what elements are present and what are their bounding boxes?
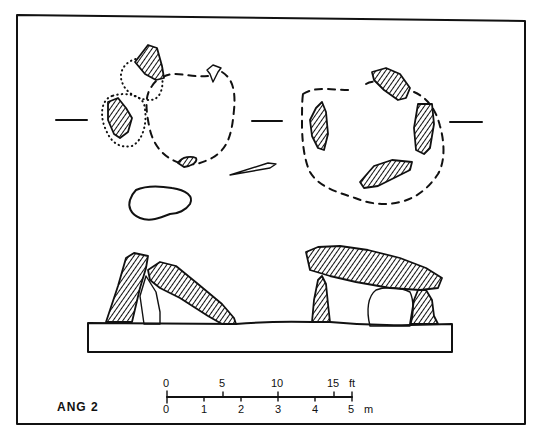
elevation-rounded-boulder bbox=[368, 288, 413, 326]
plan-stone-small-top bbox=[207, 65, 221, 82]
dashed-chamber-outline bbox=[147, 72, 235, 164]
scale-m-1: 1 bbox=[201, 403, 207, 415]
left-tomb-elevation bbox=[106, 253, 236, 324]
right-tomb-plan bbox=[302, 68, 444, 204]
elevation-capstone-collapsed bbox=[148, 262, 236, 324]
scale-ft-10: 10 bbox=[271, 377, 283, 389]
scale-m-0: 0 bbox=[163, 403, 169, 415]
plan-stone-right-left bbox=[310, 102, 328, 150]
scale-ft-0: 0 bbox=[163, 377, 169, 389]
elevation-upright-left bbox=[312, 276, 330, 322]
left-tomb-plan bbox=[102, 45, 234, 220]
scale-m-2: 2 bbox=[238, 403, 244, 415]
figure-frame bbox=[17, 15, 525, 424]
figure-label: ANG 2 bbox=[57, 400, 99, 414]
ground-slab bbox=[88, 322, 452, 352]
right-tomb-elevation bbox=[306, 246, 442, 326]
scale-m-unit: m bbox=[364, 403, 373, 415]
plan-stone-right-bottom bbox=[360, 160, 412, 188]
scale-m-3: 3 bbox=[275, 403, 281, 415]
plan-stone-upper-left bbox=[135, 45, 164, 80]
scale-ft-unit: ft bbox=[349, 377, 355, 389]
outlined-stone-loose bbox=[129, 187, 191, 220]
elevation-upright-right bbox=[410, 290, 438, 324]
plan-stone-bottom bbox=[178, 157, 196, 167]
scale-m-4: 4 bbox=[312, 403, 318, 415]
scale-ft-15: 15 bbox=[327, 377, 339, 389]
plan-stone-right-right bbox=[414, 104, 434, 154]
scale-bar: 0 5 10 15 ft 0 1 2 3 4 5 m bbox=[163, 377, 373, 415]
plan-stone-right-top bbox=[372, 68, 410, 100]
scale-m-5: 5 bbox=[348, 403, 354, 415]
north-arrow-icon bbox=[230, 163, 276, 175]
plan-stone-left bbox=[108, 98, 132, 138]
archaeological-plan-figure: 0 5 10 15 ft 0 1 2 3 4 5 m ANG 2 bbox=[0, 0, 543, 439]
scale-ft-5: 5 bbox=[219, 377, 225, 389]
